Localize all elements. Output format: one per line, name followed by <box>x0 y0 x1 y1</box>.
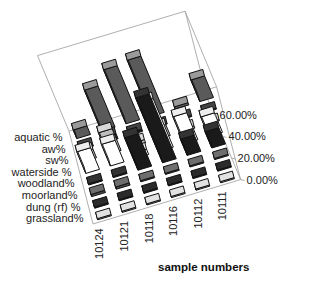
bar <box>191 167 207 179</box>
series-label: woodland% <box>17 177 75 189</box>
series-label: waterside % <box>11 166 72 178</box>
bar <box>87 173 103 185</box>
z-tick-label: 20.00% <box>238 152 276 164</box>
bar <box>114 176 130 189</box>
bar <box>216 160 232 172</box>
category-label: 10124 <box>93 228 105 259</box>
bar <box>89 184 105 197</box>
series-label: grassland% <box>26 212 84 224</box>
z-tick-label: 40.00% <box>229 130 267 142</box>
category-label: 10116 <box>167 206 179 236</box>
series-label: dung (rf) % <box>26 201 81 213</box>
series-label: aquatic % <box>14 131 63 143</box>
series-label: aw% <box>42 143 66 155</box>
bar <box>142 182 158 194</box>
bar <box>96 208 112 220</box>
bar <box>169 186 185 198</box>
bar <box>189 69 213 101</box>
category-axis-labels: 101241012110118101161011210111 <box>93 191 228 259</box>
category-label: 10111 <box>216 191 228 220</box>
z-tick-label: 0.00% <box>247 174 278 186</box>
bar <box>93 197 109 209</box>
bar <box>111 166 127 178</box>
bar-chart-3d: aquatic %aw%sw%waterside %woodland%moorl… <box>0 0 336 293</box>
series-label: sw% <box>45 154 68 166</box>
bar <box>219 171 235 183</box>
category-label: 10112 <box>192 199 204 229</box>
series-label: moorland% <box>22 189 78 201</box>
bar <box>120 201 136 213</box>
category-label: 10118 <box>143 214 155 244</box>
bar <box>203 121 225 148</box>
bar <box>117 189 133 201</box>
bar <box>145 193 161 205</box>
bar <box>72 119 91 138</box>
bar <box>179 129 201 156</box>
bar <box>194 179 210 191</box>
bar <box>139 170 155 182</box>
z-tick-label: 60.00% <box>220 109 258 121</box>
category-label: 10121 <box>118 221 130 252</box>
bar <box>213 148 229 160</box>
bar <box>123 127 152 170</box>
bar <box>163 163 179 175</box>
bar <box>188 155 204 167</box>
chart-bars <box>72 50 235 220</box>
x-axis-title: sample numbers <box>158 261 249 273</box>
bar <box>166 174 182 186</box>
